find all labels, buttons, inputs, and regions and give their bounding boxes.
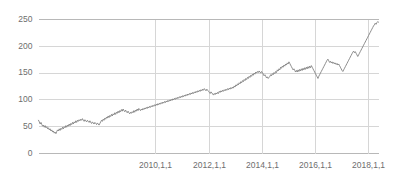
y-tick-label: 150	[18, 67, 32, 77]
x-tick-label: 2016,1,1	[299, 160, 332, 170]
y-tick-label: 200	[18, 41, 32, 51]
x-tick-label: 2012,1,1	[193, 160, 226, 170]
y-tick-label: 100	[18, 94, 32, 104]
x-axis-tick-labels: 2010,1,12012,1,12014,1,12016,1,12018,1,1	[139, 160, 385, 170]
y-tick-label: 250	[18, 14, 32, 24]
x-tick-label: 2014,1,1	[246, 160, 279, 170]
y-tick-label: 50	[23, 121, 33, 131]
line-chart: 050100150200250 2010,1,12012,1,12014,1,1…	[0, 0, 395, 183]
grid-lines	[39, 20, 379, 154]
y-axis-tick-labels: 050100150200250	[18, 14, 32, 158]
x-tick-label: 2018,1,1	[352, 160, 385, 170]
x-tick-label: 2010,1,1	[139, 160, 172, 170]
series-line-series-1	[39, 22, 379, 134]
chart-canvas: 050100150200250 2010,1,12012,1,12014,1,1…	[0, 0, 395, 183]
y-tick-label: 0	[28, 148, 33, 158]
data-series-line	[39, 22, 379, 134]
